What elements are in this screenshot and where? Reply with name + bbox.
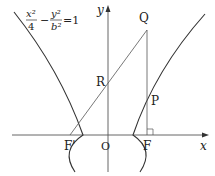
x-axis-arrow-icon: [202, 133, 209, 138]
right-angle-mark: [147, 129, 153, 135]
line-fprime-q: [70, 30, 147, 135]
label-f-prime: F': [64, 139, 76, 153]
label-y-axis: y: [96, 3, 104, 17]
hyperbola-equation: x² 4 − y² b² =1: [26, 8, 79, 32]
label-r: R: [96, 75, 106, 89]
y-axis-arrow-icon: [106, 5, 111, 12]
eq-x-den: 4: [28, 21, 34, 32]
hyperbola-diagram: Q R P F F' O x y x² 4 − y² b² =1: [0, 0, 215, 176]
eq-x-num: x²: [26, 8, 36, 19]
eq-minus: −: [40, 14, 49, 27]
diagram-canvas: Q R P F F' O x y x² 4 − y² b² =1: [0, 0, 215, 176]
label-origin: O: [101, 140, 110, 153]
eq-y-den: b²: [51, 21, 61, 32]
label-f: F: [143, 139, 151, 153]
label-x-axis: x: [200, 139, 207, 153]
eq-y-num: y²: [50, 8, 61, 19]
eq-rhs: =1: [63, 14, 79, 27]
label-q: Q: [139, 11, 149, 25]
label-p: P: [151, 94, 159, 108]
